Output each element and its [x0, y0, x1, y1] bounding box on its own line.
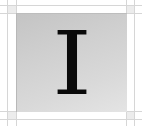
- frame-line-bottom-outer: [0, 119, 142, 120]
- corner-top-left: [7, 5, 16, 13]
- letter-tile: I: [16, 13, 127, 112]
- frame-line-top-outer: [0, 5, 142, 6]
- letter-glyph: I: [9, 14, 136, 112]
